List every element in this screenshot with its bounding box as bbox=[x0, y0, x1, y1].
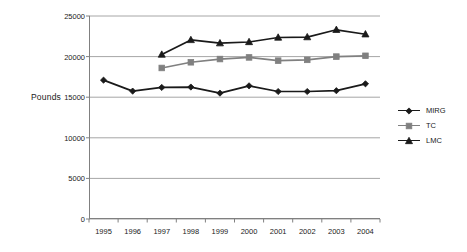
y-tick-label: 0 bbox=[81, 215, 85, 224]
legend-item-tc[interactable]: TC bbox=[398, 118, 464, 133]
plot-area: 0500010000150002000025000 19951996199719… bbox=[89, 16, 380, 219]
data-point-square bbox=[246, 55, 252, 61]
series-lmc bbox=[158, 26, 369, 57]
data-point-triangle bbox=[333, 26, 340, 32]
legend-swatch-diamond-icon bbox=[398, 105, 420, 117]
legend-item-mirg[interactable]: MIRG bbox=[398, 103, 464, 118]
x-tick-label: 1999 bbox=[212, 227, 229, 236]
y-tick-label: 5000 bbox=[68, 174, 85, 183]
data-point-square bbox=[188, 59, 194, 65]
x-tick-label: 1998 bbox=[183, 227, 200, 236]
data-point-diamond bbox=[130, 88, 136, 94]
y-tick-label: 10000 bbox=[64, 133, 85, 142]
x-tick-label: 1995 bbox=[95, 227, 112, 236]
legend-swatch-square-icon bbox=[398, 120, 420, 132]
series-line bbox=[104, 80, 366, 93]
data-point-square bbox=[159, 65, 165, 71]
data-point-square bbox=[334, 54, 340, 60]
legend-marker-square-icon bbox=[402, 120, 416, 132]
y-tick-label: 20000 bbox=[64, 52, 85, 61]
data-point-diamond bbox=[217, 90, 223, 96]
chart-canvas bbox=[89, 16, 380, 219]
line-chart: Pounds 0500010000150002000025000 1995199… bbox=[0, 0, 467, 252]
data-point-diamond bbox=[188, 84, 194, 90]
y-tick-label: 15000 bbox=[64, 93, 85, 102]
legend-label: MIRG bbox=[426, 106, 446, 115]
y-tick-label: 25000 bbox=[64, 12, 85, 21]
x-tick-label: 2004 bbox=[357, 227, 374, 236]
data-point-diamond bbox=[246, 83, 252, 89]
x-tick-label: 1997 bbox=[153, 227, 170, 236]
x-tick-label: 2002 bbox=[299, 227, 316, 236]
data-point-diamond bbox=[159, 84, 165, 90]
data-point-diamond bbox=[100, 77, 106, 83]
x-tick-label: 2000 bbox=[241, 227, 258, 236]
legend-item-lmc[interactable]: LMC bbox=[398, 133, 464, 148]
data-point-square bbox=[217, 56, 223, 62]
data-point-square bbox=[406, 123, 412, 129]
x-tick-label: 1996 bbox=[124, 227, 141, 236]
data-point-triangle bbox=[405, 137, 412, 143]
gridlines bbox=[89, 16, 380, 219]
data-point-diamond bbox=[406, 107, 412, 113]
legend-swatch-triangle-icon bbox=[398, 135, 420, 147]
data-point-diamond bbox=[304, 88, 310, 94]
data-point-diamond bbox=[275, 88, 281, 94]
data-point-square bbox=[363, 53, 369, 59]
legend-label: TC bbox=[426, 121, 436, 130]
legend-label: LMC bbox=[426, 136, 442, 145]
chart-legend: MIRGTCLMC bbox=[398, 103, 464, 148]
axes bbox=[86, 16, 380, 223]
data-point-square bbox=[304, 57, 310, 63]
series-mirg bbox=[100, 77, 368, 96]
series-tc bbox=[159, 53, 368, 71]
legend-marker-diamond-icon bbox=[402, 105, 416, 117]
data-point-diamond bbox=[362, 81, 368, 87]
x-tick-label: 2001 bbox=[270, 227, 287, 236]
x-tick-label: 2003 bbox=[328, 227, 345, 236]
legend-marker-triangle-icon bbox=[402, 135, 416, 147]
data-point-diamond bbox=[333, 88, 339, 94]
data-point-square bbox=[275, 58, 281, 64]
